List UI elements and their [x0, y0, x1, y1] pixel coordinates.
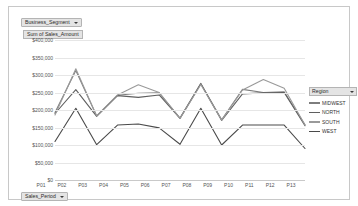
- x-axis-tick-label: P10: [224, 183, 233, 188]
- chart-frame: Business_Segment Sum of Sales_Amount Sal…: [8, 6, 350, 200]
- gridline: [55, 128, 305, 129]
- gridline: [55, 180, 305, 181]
- legend-item-north[interactable]: NORTH: [309, 110, 357, 115]
- series-line-north: [55, 84, 305, 126]
- x-axis-tick-label: P01: [37, 183, 46, 188]
- gridline: [55, 145, 305, 146]
- legend-swatch: [309, 121, 320, 123]
- y-axis-tick-label: $50,000: [35, 160, 53, 165]
- legend-item-south[interactable]: SOUTH: [309, 120, 357, 125]
- x-axis-tick-label: P09: [203, 183, 212, 188]
- series-line-south: [55, 69, 305, 125]
- legend-item-label: MIDWEST: [322, 101, 346, 106]
- legend-item-west[interactable]: WEST: [309, 129, 357, 134]
- x-axis-tick-label: P07: [162, 183, 171, 188]
- legend-item-label: SOUTH: [322, 120, 340, 125]
- plot-canvas: [55, 40, 305, 180]
- legend-header-region[interactable]: Region: [309, 87, 357, 96]
- gridline: [55, 93, 305, 94]
- field-button-sales-period-label: Sales_Period: [25, 194, 56, 199]
- legend-swatch: [309, 102, 320, 104]
- x-axis-tick-label: P12: [266, 183, 275, 188]
- field-button-business-segment[interactable]: Business_Segment: [21, 18, 82, 27]
- gridline: [55, 163, 305, 164]
- chevron-down-icon[interactable]: [60, 196, 64, 198]
- y-axis-tick-label: $100,000: [32, 143, 53, 148]
- y-axis-tick-label: $400,000: [32, 38, 53, 43]
- gridline: [55, 40, 305, 41]
- x-axis-tick-label: P13: [287, 183, 296, 188]
- y-axis-tick-label: $0: [47, 178, 53, 183]
- gridline: [55, 110, 305, 111]
- gridline: [55, 58, 305, 59]
- field-button-business-segment-label: Business_Segment: [25, 20, 70, 25]
- x-axis-tick-label: P08: [182, 183, 191, 188]
- legend: Region MIDWESTNORTHSOUTHWEST: [309, 87, 357, 134]
- legend-swatch: [309, 112, 320, 114]
- x-axis-tick-label: P04: [99, 183, 108, 188]
- legend-title: Region: [312, 89, 328, 94]
- y-axis: $400,000$350,000$300,000$250,000$200,000…: [23, 40, 55, 180]
- y-axis-tick-label: $300,000: [32, 73, 53, 78]
- x-axis-tick-label: P11: [245, 183, 254, 188]
- y-axis-tick-label: $350,000: [32, 55, 53, 60]
- legend-item-midwest[interactable]: MIDWEST: [309, 101, 357, 106]
- field-button-sales-period[interactable]: Sales_Period: [21, 192, 68, 201]
- x-axis-tick-label: P05: [120, 183, 129, 188]
- chevron-down-icon[interactable]: [350, 91, 354, 93]
- x-axis: P01P02P03P04P05P06P07P08P09P10P11P12P13: [41, 183, 291, 193]
- y-axis-tick-label: $250,000: [32, 90, 53, 95]
- plot-area: $400,000$350,000$300,000$250,000$200,000…: [23, 40, 305, 180]
- legend-item-label: NORTH: [322, 110, 340, 115]
- legend-swatch: [309, 131, 320, 133]
- series-line-midwest: [55, 70, 305, 124]
- x-axis-tick-label: P03: [78, 183, 87, 188]
- chevron-down-icon[interactable]: [74, 22, 78, 24]
- x-axis-tick-label: P02: [57, 183, 66, 188]
- x-axis-tick-label: P06: [141, 183, 150, 188]
- legend-item-list: MIDWESTNORTHSOUTHWEST: [309, 101, 357, 135]
- y-axis-tick-label: $150,000: [32, 125, 53, 130]
- legend-item-label: WEST: [322, 129, 336, 134]
- pivot-chart-screen: Business_Segment Sum of Sales_Amount Sal…: [0, 0, 358, 206]
- gridline: [55, 75, 305, 76]
- y-axis-tick-label: $200,000: [32, 108, 53, 113]
